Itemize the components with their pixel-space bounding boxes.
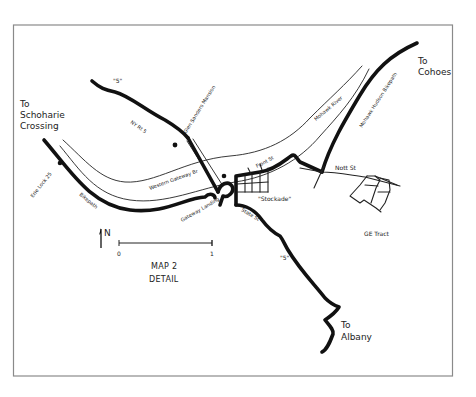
western-gateway-br-label: Western Gateway Br xyxy=(148,167,199,191)
north-label: N xyxy=(104,228,111,238)
scale-end-label: 1 xyxy=(210,250,214,257)
ge-tract-grid xyxy=(350,176,397,212)
schoharie-label: Schoharie xyxy=(20,110,65,120)
stockade-grid xyxy=(237,164,268,192)
gateway-landing-loop xyxy=(218,183,233,205)
glen-sanders-marker xyxy=(173,143,178,148)
cohoes-label: Cohoes xyxy=(418,67,452,77)
route-5-south-label: "5" xyxy=(280,254,290,261)
mohawk-hudson-bikepath-label: Mohawk Hudson Bikepath xyxy=(358,71,399,129)
to-schoharie-label: To xyxy=(19,99,30,109)
scale-bar: 0 1 xyxy=(117,240,214,257)
glen-sanders-mansion-label: Glen Sanders Mansion xyxy=(182,84,217,134)
to-cohoes-label: To xyxy=(417,56,428,66)
crossing-label: Crossing xyxy=(20,121,59,131)
stockade-label: "Stockade" xyxy=(258,195,291,202)
route-5-north-label: "5" xyxy=(113,77,123,84)
north-arrow: N xyxy=(99,228,111,248)
nott-st-label: Nott St xyxy=(335,164,357,171)
bridge-road xyxy=(188,138,218,192)
to-albany-label: To xyxy=(340,320,351,330)
bikepath-label: Bikepath xyxy=(78,191,99,210)
route-5-south xyxy=(236,205,339,352)
scale-start-label: 0 xyxy=(117,250,121,257)
map-title-line1: MAP 2 xyxy=(151,262,177,271)
river-north-bank xyxy=(63,66,362,182)
map-canvas: To Schoharie Crossing To Cohoes To Alban… xyxy=(0,0,476,397)
landing-marker xyxy=(222,174,227,179)
map-title-line2: DETAIL xyxy=(149,275,179,284)
erie-lock-25-label: Erie Lock 25 xyxy=(29,171,53,199)
erie-lock-marker xyxy=(58,161,63,166)
mohawk-river-label: Mohawk River xyxy=(313,94,344,122)
ge-tract-label: GE Tract xyxy=(364,230,390,237)
albany-label: Albany xyxy=(341,332,373,342)
map-frame xyxy=(14,25,453,376)
ny-rt5-label: NY Rt 5 xyxy=(129,119,148,135)
